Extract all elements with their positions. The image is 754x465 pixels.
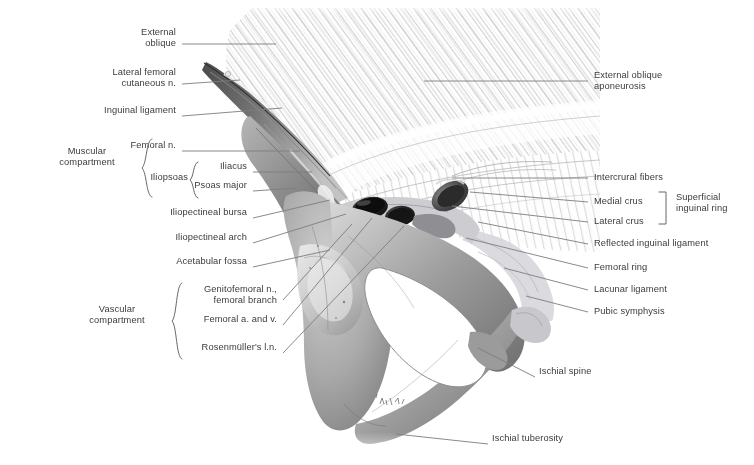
label-rosenmullers-ln: Rosenmüller's l.n.: [167, 342, 277, 353]
label-vascular-compartment: Vascular compartment: [62, 304, 172, 327]
label-genitofemoral-n: Genitofemoral n., femoral branch: [167, 284, 277, 307]
label-reflected-inguinal-ligament: Reflected inguinal ligament: [594, 238, 754, 249]
label-medial-crus: Medial crus: [594, 196, 664, 207]
label-lacunar-ligament: Lacunar ligament: [594, 284, 744, 295]
label-external-oblique-aponeurosis: External oblique aponeurosis: [594, 70, 744, 93]
label-external-oblique: External oblique: [46, 27, 176, 50]
label-iliacus: Iliacus: [157, 161, 247, 172]
label-femoral-a-and-v: Femoral a. and v.: [167, 314, 277, 325]
label-lateral-crus: Lateral crus: [594, 216, 664, 227]
label-iliopectineal-bursa: Iliopectineal bursa: [137, 207, 247, 218]
label-iliopsoas: Iliopsoas: [120, 172, 188, 183]
label-iliopectineal-arch: Iliopectineal arch: [137, 232, 247, 243]
figure-canvas: External oblique Lateral femoral cutaneo…: [0, 0, 754, 465]
label-ischial-spine: Ischial spine: [539, 366, 659, 377]
label-muscular-compartment: Muscular compartment: [32, 146, 142, 169]
label-ischial-tuberosity: Ischial tuberosity: [492, 433, 632, 444]
label-acetabular-fossa: Acetabular fossa: [137, 256, 247, 267]
artist-signature: [376, 394, 404, 405]
label-superficial-inguinal-ring: Superficial inguinal ring: [676, 192, 754, 215]
label-intercrural-fibers: Intercrural fibers: [594, 172, 744, 183]
label-femoral-ring: Femoral ring: [594, 262, 744, 273]
label-lateral-femoral-cutaneous-n: Lateral femoral cutaneous n.: [46, 67, 176, 90]
label-pubic-symphysis: Pubic symphysis: [594, 306, 744, 317]
label-inguinal-ligament: Inguinal ligament: [46, 105, 176, 116]
